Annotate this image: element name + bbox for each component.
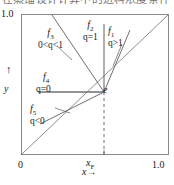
x-axis-title: x→ — [82, 167, 95, 177]
curve-label-f1: f1 q>1 — [108, 26, 123, 49]
curve-label-f5-condition: q<0 — [30, 117, 45, 127]
curve-label-f3: f3 0<q<1 — [38, 28, 63, 51]
curve-label-f4-condition: q=0 — [36, 85, 51, 95]
y-axis-title: y — [4, 84, 8, 94]
feed-point-label-e: e — [103, 85, 107, 95]
curve-label-f2: f2 q=1 — [83, 20, 98, 43]
curve-label-f3-condition: 0<q<1 — [38, 41, 63, 51]
curve-label-f2-condition: q=1 — [83, 33, 98, 43]
curve-label-f5: f5 q<0 — [30, 104, 45, 127]
q-line-diagram-figure: 在蒸馏设计计算中的进料浓度条件 1.0 0 1.0 xF x→ ↑ y — [0, 0, 174, 185]
curve-f5-line — [40, 92, 104, 124]
y-axis-tick-label-top: 1.0 — [1, 9, 14, 19]
x-axis-tick-label-one: 1.0 — [152, 160, 165, 170]
curve-label-f1-condition: q>1 — [108, 39, 123, 49]
curve-label-f4: f4 q=0 — [36, 72, 51, 95]
x-axis-tick-label-zero: 0 — [18, 160, 23, 170]
y-axis-arrow-icon: ↑ — [6, 64, 12, 75]
x-axis-arrow-icon: → — [86, 166, 95, 177]
